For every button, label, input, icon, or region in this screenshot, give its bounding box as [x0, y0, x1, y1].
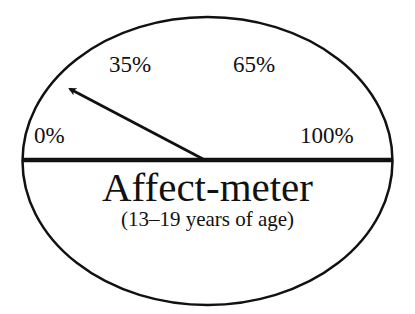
- arrow-needle-icon: [70, 89, 203, 159]
- meter-subtitle: (13–19 years of age): [0, 209, 415, 230]
- scale-label-65: 65%: [233, 53, 275, 76]
- affect-meter-graphic: [0, 0, 415, 314]
- scale-label-0: 0%: [34, 124, 65, 147]
- meter-title: Affect-meter: [0, 167, 415, 208]
- scale-label-35: 35%: [109, 53, 151, 76]
- scale-label-100: 100%: [300, 124, 354, 147]
